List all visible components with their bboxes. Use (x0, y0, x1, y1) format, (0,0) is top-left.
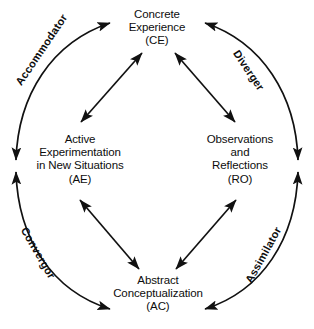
node-ce-line-2: Experience (129, 21, 186, 34)
connector-ce-ro (175, 53, 235, 122)
node-ce-line-3: (CE) (129, 34, 186, 47)
node-ro-line-1: Observations (207, 133, 274, 146)
node-abstract-conceptualization: Abstract Conceptualization (AC) (113, 274, 203, 314)
node-active-experimentation: Active Experimentation in New Situations… (36, 133, 123, 186)
node-ae-line-2: Experimentation (36, 146, 123, 159)
node-concrete-experience: Concrete Experience (CE) (129, 8, 186, 48)
connector-ce-ae (81, 53, 142, 122)
node-ro-line-4: (RO) (207, 173, 274, 186)
node-ro-line-2: and (207, 146, 274, 159)
connector-ae-ac (80, 200, 139, 269)
node-ce-line-1: Concrete (129, 8, 186, 21)
node-ae-line-4: (AE) (36, 173, 123, 186)
connector-ro-ac (176, 200, 236, 269)
node-ro-line-3: Reflections (207, 159, 274, 172)
learning-cycle-diagram: Concrete Experience (CE) Active Experime… (0, 0, 314, 329)
node-observations-and-reflections: Observations and Reflections (RO) (207, 133, 274, 186)
node-ac-line-2: Conceptualization (113, 287, 203, 300)
node-ae-line-1: Active (36, 133, 123, 146)
node-ac-line-3: (AC) (113, 300, 203, 313)
node-ac-line-1: Abstract (113, 274, 203, 287)
node-ae-line-3: in New Situations (36, 159, 123, 172)
arc-assimilator (205, 172, 298, 309)
